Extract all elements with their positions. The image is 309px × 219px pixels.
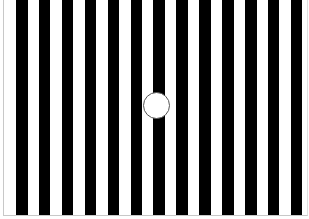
black-stripe <box>222 0 234 215</box>
black-stripe <box>131 0 143 215</box>
black-stripe <box>199 0 211 215</box>
black-stripe <box>16 0 28 215</box>
black-stripe <box>85 0 97 215</box>
black-stripe <box>176 0 188 215</box>
black-stripe <box>245 0 257 215</box>
black-stripe <box>62 0 74 215</box>
black-stripe <box>39 0 51 215</box>
center-circle <box>143 92 170 119</box>
black-stripe <box>268 0 280 215</box>
black-stripe <box>108 0 120 215</box>
black-stripe <box>291 0 303 215</box>
